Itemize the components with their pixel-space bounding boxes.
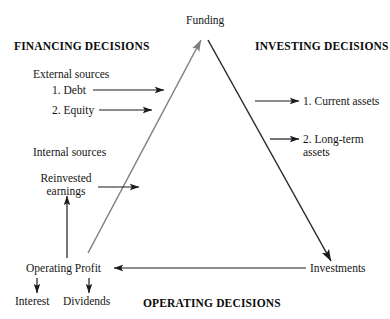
- funding-label: Funding: [186, 14, 224, 27]
- reinvested-earnings-label: Reinvested earnings: [35, 172, 97, 198]
- operating-profit-label: Operating Profit: [26, 262, 101, 275]
- investing-item-long-term-assets: 2. Long-term assets: [303, 133, 383, 159]
- finance-cycle-diagram: Funding FINANCING DECISIONS INVESTING DE…: [0, 0, 390, 319]
- interest-label: Interest: [15, 295, 49, 308]
- investing-decisions-heading: INVESTING DECISIONS: [255, 40, 389, 53]
- internal-sources-label: Internal sources: [33, 146, 106, 159]
- operating-decisions-heading: OPERATING DECISIONS: [143, 297, 281, 310]
- investing-item-current-assets: 1. Current assets: [303, 95, 379, 108]
- external-sources-label: External sources: [33, 68, 109, 81]
- financing-decisions-heading: FINANCING DECISIONS: [14, 40, 149, 53]
- financing-item-equity: 2. Equity: [52, 104, 94, 117]
- investments-label: Investments: [310, 262, 366, 275]
- financing-item-debt: 1. Debt: [52, 84, 86, 97]
- dividends-label: Dividends: [63, 295, 110, 308]
